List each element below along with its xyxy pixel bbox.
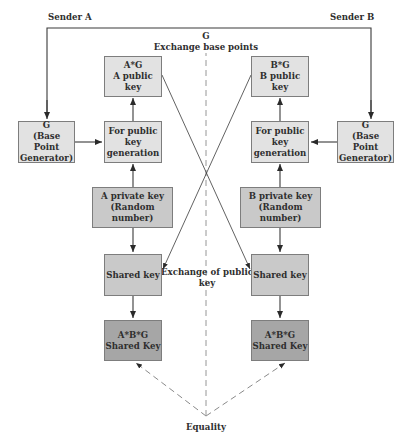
arrow-b-public-to-a-shared — [163, 75, 251, 269]
equality-arrow-left — [136, 363, 206, 416]
a-private-key-box: A private key (Random number) — [92, 187, 173, 228]
exchange-base-points-label: G Exchange base points — [150, 31, 262, 53]
b-key-generation-box: For public key generation — [251, 121, 309, 163]
equality-arrow-right — [206, 363, 285, 416]
a-shared-key-box: Shared key — [104, 254, 162, 296]
a-final-shared-key-box: A*B*G Shared Key — [104, 320, 162, 361]
b-public-key-box: B*G B public key — [251, 56, 309, 97]
b-shared-key-box: Shared key — [251, 254, 309, 296]
connector-layer — [0, 0, 406, 445]
b-public-key-text: B*G B public key — [252, 60, 308, 93]
sender-a-label: Sender A — [48, 12, 92, 23]
a-key-generation-text: For public key generation — [107, 126, 160, 159]
b-private-key-text: B private key (Random number) — [241, 191, 320, 224]
exchange-public-key-label: Exchange of public key — [160, 267, 254, 289]
ecdh-key-exchange-diagram: Sender A Sender B G Exchange base points… — [0, 0, 406, 445]
b-final-shared-key-box: A*B*G Shared Key — [251, 320, 309, 361]
b-private-key-box: B private key (Random number) — [240, 187, 321, 228]
equality-label: Equality — [176, 422, 236, 433]
a-shared-key-text: Shared key — [106, 270, 159, 281]
b-shared-key-text: Shared key — [253, 270, 306, 281]
a-public-key-text: A*G A public key — [105, 60, 161, 93]
a-base-point-generator-box: G (Base Point Generator) — [18, 121, 75, 163]
a-final-shared-key-text: A*B*G Shared Key — [106, 330, 161, 352]
b-base-point-text: G (Base Point Generator) — [338, 120, 393, 164]
a-private-key-text: A private key (Random number) — [93, 191, 172, 224]
sender-b-label: Sender B — [330, 12, 374, 23]
a-base-point-text: G (Base Point Generator) — [19, 120, 74, 164]
b-final-shared-key-text: A*B*G Shared Key — [253, 330, 308, 352]
a-public-key-box: A*G A public key — [104, 56, 162, 97]
b-base-point-generator-box: G (Base Point Generator) — [337, 121, 394, 163]
a-key-generation-box: For public key generation — [104, 121, 162, 163]
b-key-generation-text: For public key generation — [254, 126, 307, 159]
